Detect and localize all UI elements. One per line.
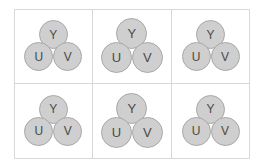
node-v[interactable]: V xyxy=(132,42,163,73)
yuv-triad: Y U V xyxy=(182,20,240,72)
cell-grid: Y U V Y U V xyxy=(14,9,250,158)
node-v[interactable]: V xyxy=(211,42,240,71)
grid-cell[interactable]: Y U V xyxy=(14,9,94,85)
node-u[interactable]: U xyxy=(101,117,132,148)
node-label: V xyxy=(221,125,229,137)
node-label: U xyxy=(192,51,201,63)
grid-cell[interactable]: Y U V xyxy=(92,83,172,159)
node-v[interactable]: V xyxy=(132,117,163,148)
yuv-triad: Y U V xyxy=(101,18,163,74)
node-label: Y xyxy=(207,103,215,115)
node-label: Y xyxy=(49,29,57,41)
node-label: Y xyxy=(49,103,57,115)
node-v[interactable]: V xyxy=(211,117,240,146)
grid-cell[interactable]: Y U V xyxy=(171,9,251,85)
node-label: Y xyxy=(128,102,137,115)
node-v[interactable]: V xyxy=(53,117,82,146)
node-label: V xyxy=(64,51,72,63)
grid-cell[interactable]: Y U V xyxy=(14,83,94,159)
node-label: Y xyxy=(128,27,137,40)
node-label: V xyxy=(143,51,152,64)
node-v[interactable]: V xyxy=(53,42,82,71)
node-label: U xyxy=(34,51,43,63)
node-label: Y xyxy=(207,29,215,41)
grid-cell[interactable]: Y U V xyxy=(171,83,251,159)
yuv-triad: Y U V xyxy=(24,20,82,72)
node-u[interactable]: U xyxy=(24,117,53,146)
node-label: U xyxy=(34,125,43,137)
node-u[interactable]: U xyxy=(24,42,53,71)
node-label: U xyxy=(112,51,122,64)
yuv-triad: Y U V xyxy=(182,95,240,147)
node-u[interactable]: U xyxy=(182,117,211,146)
node-u[interactable]: U xyxy=(101,42,132,73)
node-label: U xyxy=(192,125,201,137)
node-label: V xyxy=(143,126,152,139)
node-u[interactable]: U xyxy=(182,42,211,71)
node-label: U xyxy=(112,126,122,139)
node-label: V xyxy=(64,125,72,137)
grid-cell[interactable]: Y U V xyxy=(92,9,172,85)
yuv-triad: Y U V xyxy=(101,93,163,149)
node-label: V xyxy=(221,51,229,63)
yuv-triad: Y U V xyxy=(24,95,82,147)
figure-root: Y U V Y U V xyxy=(0,0,265,166)
